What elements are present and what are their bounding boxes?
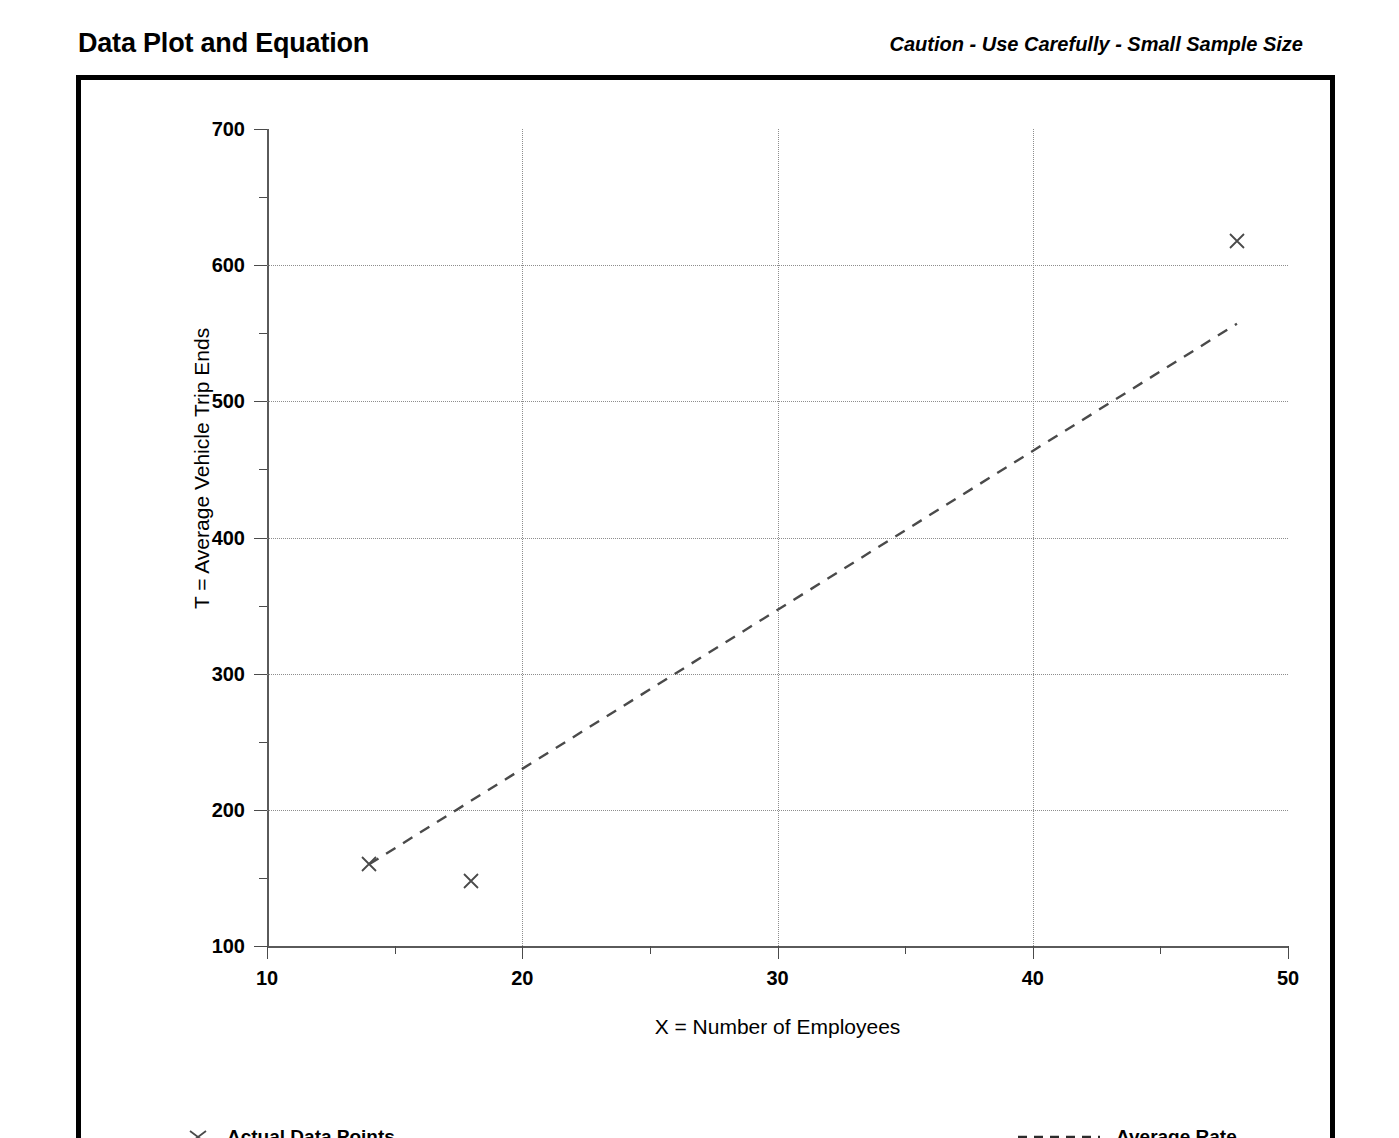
- y-tick-major: [254, 129, 267, 130]
- x-tick-label: 40: [1022, 967, 1044, 990]
- y-tick-minor: [259, 333, 267, 334]
- data-point-marker: [461, 871, 481, 891]
- legend-label-average-rate: Average Rate: [1116, 1126, 1237, 1138]
- chart-panel: T = Average Vehicle Trip Ends X = Number…: [76, 75, 1335, 1138]
- plot-region: 1002003004005006007001020304050: [267, 129, 1288, 946]
- x-tick-minor: [650, 946, 651, 954]
- y-tick-minor: [259, 606, 267, 607]
- y-tick-major: [254, 674, 267, 675]
- average-rate-trendline: [267, 129, 1288, 946]
- y-tick-minor: [259, 197, 267, 198]
- y-tick-major: [254, 401, 267, 402]
- x-tick-major: [778, 946, 779, 959]
- caution-note: Caution - Use Carefully - Small Sample S…: [890, 33, 1303, 56]
- dashed-line-icon: [1016, 1127, 1102, 1138]
- y-tick-major: [254, 265, 267, 266]
- legend-item-average-rate[interactable]: Average Rate: [1016, 1126, 1237, 1138]
- y-axis-title: T = Average Vehicle Trip Ends: [190, 189, 214, 609]
- y-tick-minor: [259, 742, 267, 743]
- page-title: Data Plot and Equation: [78, 28, 369, 59]
- y-tick-major: [254, 946, 267, 947]
- y-tick-label: 600: [212, 254, 245, 277]
- data-point-marker: [359, 854, 379, 874]
- y-tick-label: 400: [212, 526, 245, 549]
- y-tick-label: 500: [212, 390, 245, 413]
- x-tick-major: [1288, 946, 1289, 959]
- x-tick-major: [1033, 946, 1034, 959]
- y-tick-label: 200: [212, 798, 245, 821]
- data-point-marker: [1227, 231, 1247, 251]
- x-tick-label: 50: [1277, 967, 1299, 990]
- legend-label-actual-data-points: Actual Data Points: [227, 1126, 395, 1138]
- x-tick-major: [267, 946, 268, 959]
- y-tick-label: 700: [212, 118, 245, 141]
- x-tick-minor: [395, 946, 396, 954]
- x-marker-icon: [185, 1127, 211, 1138]
- x-tick-minor: [1160, 946, 1161, 954]
- x-tick-label: 20: [511, 967, 533, 990]
- y-tick-minor: [259, 469, 267, 470]
- legend-item-actual-data-points[interactable]: Actual Data Points: [185, 1126, 395, 1138]
- x-tick-minor: [905, 946, 906, 954]
- x-tick-label: 30: [766, 967, 788, 990]
- x-tick-major: [522, 946, 523, 959]
- y-tick-major: [254, 810, 267, 811]
- y-tick-label: 300: [212, 662, 245, 685]
- x-axis-title: X = Number of Employees: [267, 1015, 1288, 1039]
- trendline-path: [369, 324, 1237, 865]
- y-tick-label: 100: [212, 935, 245, 958]
- x-tick-label: 10: [256, 967, 278, 990]
- y-tick-minor: [259, 878, 267, 879]
- chart-area: T = Average Vehicle Trip Ends X = Number…: [81, 80, 1335, 1138]
- y-tick-major: [254, 538, 267, 539]
- page-header: Data Plot and Equation Caution - Use Car…: [0, 0, 1399, 75]
